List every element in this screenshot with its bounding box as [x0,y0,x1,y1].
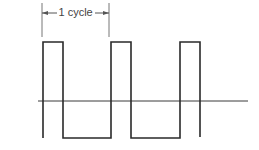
square-waveform [43,42,200,138]
arrow-left-icon [42,11,48,15]
square-wave-diagram [0,0,259,150]
cycle-label: 1 cycle [57,6,95,18]
arrow-right-icon [103,11,109,15]
